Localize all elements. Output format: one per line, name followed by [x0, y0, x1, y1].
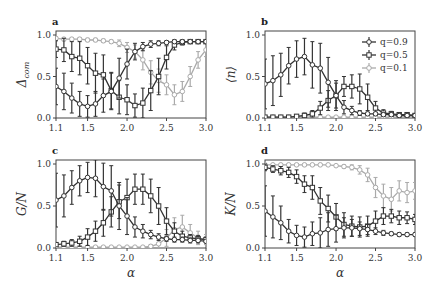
y-tick-label: 0.5 — [246, 201, 261, 211]
circle-marker — [101, 93, 106, 98]
y-axis-label: G/N — [15, 191, 29, 216]
series-q-09 — [54, 160, 209, 244]
circle-marker — [381, 231, 386, 236]
square-marker — [85, 235, 89, 239]
square-marker — [413, 217, 417, 221]
circle-marker — [54, 84, 59, 89]
circle-marker — [117, 245, 122, 250]
y-tick-label: 1.0 — [37, 159, 52, 169]
square-marker — [318, 199, 322, 203]
square-marker — [164, 219, 168, 223]
circle-marker — [125, 214, 130, 219]
x-axis-label: α — [336, 266, 344, 280]
y-axis-label: ⟨n⟩ — [224, 66, 238, 83]
panel-d: 1.11.52.02.53.00.00.51.0dK/Nα — [224, 145, 422, 280]
square-marker-icon — [367, 53, 371, 57]
circle-marker — [271, 78, 276, 83]
circle-marker — [278, 73, 283, 78]
y-tick-label: 0.0 — [37, 243, 52, 253]
figure: 1.11.52.02.53.00.00.51.0aΔcom 1.11.52.02… — [0, 0, 440, 295]
circle-marker — [302, 163, 307, 168]
circle-marker — [141, 229, 146, 234]
x-tick-label: 1.1 — [258, 123, 272, 133]
x-tick-label: 3.0 — [199, 123, 214, 133]
circle-marker — [381, 194, 386, 199]
series-line — [56, 177, 206, 241]
circle-marker — [334, 93, 339, 98]
square-marker — [397, 216, 401, 220]
square-marker — [326, 206, 330, 210]
circle-marker — [133, 225, 138, 230]
circle-marker — [164, 83, 169, 88]
x-tick-label: 2.0 — [329, 253, 344, 263]
panel-letter: b — [261, 16, 268, 27]
circle-marker — [263, 82, 268, 87]
circle-marker — [109, 39, 114, 44]
circle-marker — [101, 184, 106, 189]
series-q-05 — [263, 74, 417, 119]
circle-marker — [397, 189, 402, 194]
circle-marker — [109, 89, 114, 94]
y-tick-label: 0.5 — [246, 72, 261, 82]
circle-marker — [77, 179, 82, 184]
square-marker — [389, 214, 393, 218]
circle-marker — [334, 163, 339, 168]
circle-marker — [109, 245, 114, 250]
x-tick-label: 2.0 — [120, 253, 135, 263]
square-marker — [70, 241, 74, 245]
circle-marker — [271, 215, 276, 220]
circle-marker — [373, 229, 378, 234]
panel-letter: a — [52, 16, 59, 27]
circle-marker — [172, 39, 177, 44]
plot-area — [54, 36, 209, 118]
circle-marker — [133, 245, 138, 250]
square-marker — [133, 187, 137, 191]
square-marker — [302, 182, 306, 186]
series-q-05 — [263, 164, 417, 237]
x-tick-label: 1.5 — [80, 253, 95, 263]
circle-marker — [342, 115, 347, 120]
circle-marker — [310, 231, 315, 236]
circle-marker — [77, 37, 82, 42]
circle-marker — [172, 237, 177, 242]
square-marker — [156, 74, 160, 78]
circle-marker — [294, 163, 299, 168]
series-q-01 — [54, 215, 209, 249]
circle-marker — [357, 226, 362, 231]
square-marker — [263, 165, 267, 169]
square-marker — [279, 115, 283, 119]
circle-marker — [141, 58, 146, 63]
circle-marker — [397, 113, 402, 118]
circle-marker — [93, 245, 98, 250]
circle-marker — [318, 163, 323, 168]
circle-marker — [180, 225, 185, 230]
y-tick-label: 1.0 — [246, 30, 261, 40]
square-marker — [93, 229, 97, 233]
circle-marker — [180, 89, 185, 94]
x-tick-label: 1.5 — [289, 123, 304, 133]
x-tick-label: 3.0 — [199, 253, 214, 263]
circle-marker — [413, 113, 418, 118]
circle-marker — [109, 189, 114, 194]
circle-marker — [101, 39, 106, 44]
circle-marker — [196, 238, 201, 243]
square-marker — [271, 167, 275, 171]
circle-marker — [156, 235, 161, 240]
circle-marker — [77, 102, 82, 107]
circle-marker — [389, 112, 394, 117]
legend-item: q=0.5 — [362, 50, 408, 60]
square-marker — [358, 87, 362, 91]
circle-marker — [405, 232, 410, 237]
circle-marker — [373, 112, 378, 117]
circle-marker — [326, 115, 331, 120]
series-q-05 — [54, 174, 208, 247]
series-q-01 — [263, 163, 418, 212]
square-marker — [350, 84, 354, 88]
circle-marker — [389, 197, 394, 202]
circle-marker-icon — [367, 66, 372, 71]
circle-marker — [413, 232, 418, 237]
circle-marker — [69, 185, 74, 190]
legend: q=0.9q=0.5q=0.1 — [362, 37, 408, 73]
y-tick-label: 0.0 — [246, 243, 261, 253]
series-q-09 — [54, 39, 209, 117]
